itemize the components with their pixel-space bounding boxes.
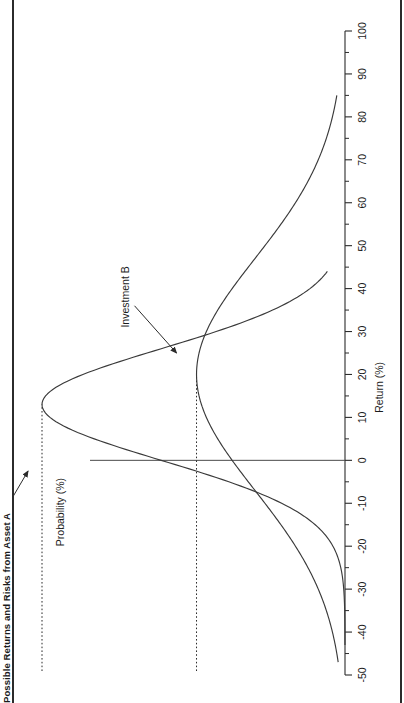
annotation-arrows	[12, 306, 177, 529]
frame-rule-bottom	[400, 0, 402, 703]
figure-title: Possible Returns and Risks from Asset A	[1, 513, 12, 703]
distribution-curves	[42, 95, 345, 662]
figure-root: Possible Returns and Risks from Asset A …	[0, 0, 404, 703]
curve-label-investment-b: Investment B	[119, 266, 131, 327]
x-tick-label: 10	[356, 412, 368, 424]
x-tick-label: 50	[356, 240, 368, 252]
x-tick-label: 70	[356, 154, 368, 166]
x-tick-label: -50	[356, 667, 368, 682]
x-tick-label: -20	[356, 539, 368, 554]
x-tick-label: 90	[356, 68, 368, 80]
x-axis	[345, 31, 352, 675]
x-tick-label: 60	[356, 197, 368, 209]
x-tick-label: 100	[356, 22, 368, 40]
y-axis-title: Probability (%)	[54, 478, 66, 546]
x-tick-label: -10	[356, 496, 368, 511]
x-tick-label: 30	[356, 326, 368, 338]
x-tick-label: -30	[356, 582, 368, 597]
x-axis-title: Return (%)	[373, 362, 385, 413]
x-tick-label: 20	[356, 369, 368, 381]
x-tick-label: 80	[356, 111, 368, 123]
x-tick-label: 0	[356, 457, 368, 463]
x-tick-label: -40	[356, 624, 368, 639]
x-tick-label: 40	[356, 283, 368, 295]
plot-area	[12, 0, 400, 703]
